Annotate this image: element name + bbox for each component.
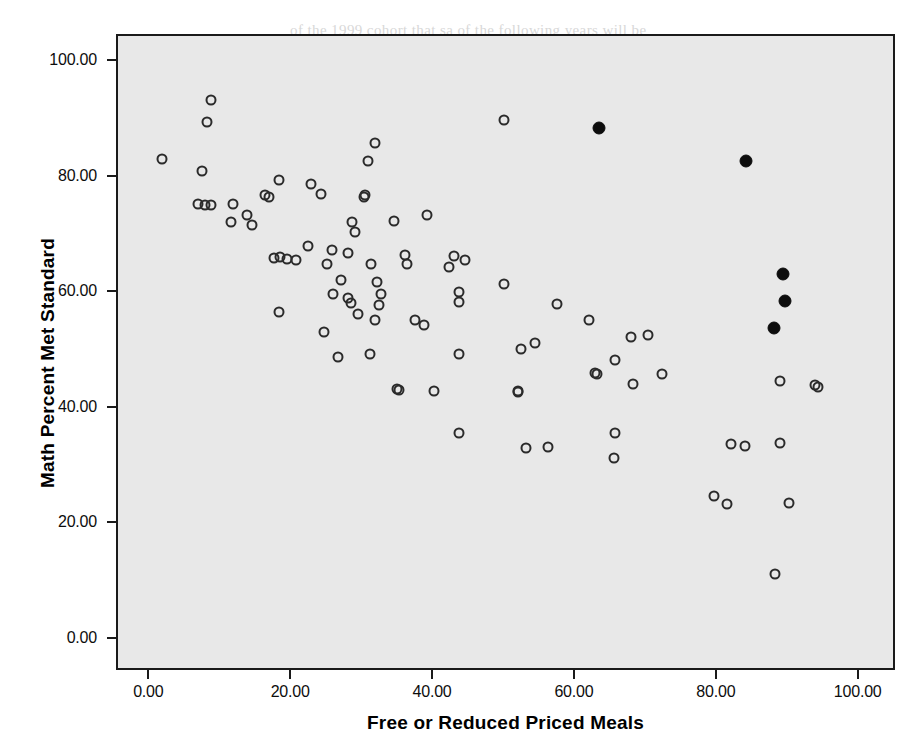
x-axis-tick-label: 40.00: [413, 683, 452, 701]
data-point: [708, 490, 719, 501]
data-point-highlighted: [767, 322, 780, 335]
data-point: [349, 227, 360, 238]
data-point: [365, 259, 376, 270]
data-point: [448, 251, 459, 262]
data-point: [740, 440, 751, 451]
data-point: [393, 385, 404, 396]
y-axis-tick-label: 80.00: [58, 167, 97, 185]
data-point: [365, 348, 376, 359]
data-point: [419, 319, 430, 330]
x-axis-tick-label: 60.00: [554, 683, 593, 701]
data-point-highlighted: [593, 122, 606, 135]
data-point: [359, 189, 370, 200]
data-point: [264, 192, 275, 203]
data-point: [552, 299, 563, 310]
y-axis-tick: [107, 290, 116, 292]
data-points-layer: [118, 36, 893, 668]
data-point: [609, 452, 620, 463]
data-point: [363, 156, 374, 167]
y-axis-tick: [107, 175, 116, 177]
y-axis-tick-label: 40.00: [58, 398, 97, 416]
data-point: [812, 381, 823, 392]
data-point: [328, 288, 339, 299]
data-point: [346, 298, 357, 309]
data-point: [584, 314, 595, 325]
data-point: [591, 368, 602, 379]
data-point: [543, 441, 554, 452]
data-point: [453, 427, 464, 438]
data-point-highlighted: [740, 155, 753, 168]
data-point: [326, 245, 337, 256]
plot-area: [116, 34, 895, 670]
y-axis-tick: [107, 521, 116, 523]
x-axis-tick-label: 100.00: [834, 683, 882, 701]
data-point: [316, 188, 327, 199]
data-point: [775, 437, 786, 448]
data-point: [513, 386, 524, 397]
data-point: [402, 259, 413, 270]
data-point: [302, 241, 313, 252]
data-point: [609, 355, 620, 366]
data-point: [268, 252, 279, 263]
data-point: [783, 497, 794, 508]
data-point: [205, 94, 216, 105]
data-point: [197, 166, 208, 177]
data-point: [459, 254, 470, 265]
y-axis-tick: [107, 637, 116, 639]
data-point: [226, 217, 237, 228]
x-axis-tick: [431, 670, 433, 679]
x-axis-tick-label: 80.00: [696, 683, 735, 701]
data-point-highlighted: [777, 268, 790, 281]
y-axis-title: Math Percent Met Standard: [37, 143, 59, 583]
x-axis-tick-label: 0.00: [133, 683, 163, 701]
y-axis-tick-label: 60.00: [58, 282, 97, 300]
data-point: [726, 438, 737, 449]
y-axis-tick-label: 20.00: [58, 513, 97, 531]
data-point: [306, 178, 317, 189]
data-point: [498, 115, 509, 126]
data-point: [206, 200, 217, 211]
data-point: [498, 279, 509, 290]
data-point: [346, 217, 357, 228]
data-point: [421, 210, 432, 221]
x-axis-tick: [289, 670, 291, 679]
data-point: [628, 378, 639, 389]
data-point: [332, 352, 343, 363]
data-point: [336, 275, 347, 286]
data-point: [453, 349, 464, 360]
data-point: [521, 443, 532, 454]
data-point: [202, 117, 213, 128]
data-point: [246, 219, 257, 230]
data-point: [273, 307, 284, 318]
data-point: [453, 296, 464, 307]
x-axis-tick-label: 20.00: [271, 683, 310, 701]
data-point: [656, 368, 667, 379]
data-point: [291, 255, 302, 266]
x-axis-tick: [147, 670, 149, 679]
data-point: [157, 154, 168, 165]
x-axis-title: Free or Reduced Priced Meals: [116, 712, 895, 734]
data-point-highlighted: [778, 295, 791, 308]
scatter-plot-figure: of the 1999 cohort that sa of the follow…: [0, 0, 916, 754]
y-axis-tick: [107, 406, 116, 408]
data-point: [370, 137, 381, 148]
data-point: [443, 261, 454, 272]
data-point: [722, 498, 733, 509]
data-point: [529, 337, 540, 348]
data-point: [353, 308, 364, 319]
data-point: [372, 277, 383, 288]
data-point: [375, 289, 386, 300]
data-point: [389, 216, 400, 227]
data-point: [319, 326, 330, 337]
x-axis-tick: [715, 670, 717, 679]
x-axis-tick: [857, 670, 859, 679]
y-axis-tick: [107, 59, 116, 61]
y-axis-tick-label: 0.00: [67, 629, 97, 647]
data-point: [769, 568, 780, 579]
data-point: [374, 299, 385, 310]
y-axis-tick-label: 100.00: [49, 51, 97, 69]
data-point: [643, 329, 654, 340]
data-point: [429, 385, 440, 396]
x-axis-tick: [573, 670, 575, 679]
data-point: [228, 198, 239, 209]
